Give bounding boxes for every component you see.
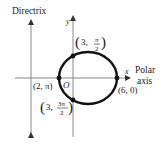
svg-text:π: π bbox=[95, 36, 99, 44]
svg-text:(: ( bbox=[40, 99, 45, 116]
point-left-label: (2, π) bbox=[33, 81, 53, 91]
x-axis-label: x bbox=[124, 67, 129, 76]
point-right-label: (6, 0) bbox=[118, 85, 138, 95]
svg-text:2: 2 bbox=[95, 45, 99, 53]
svg-text:(: ( bbox=[75, 34, 80, 51]
point-top bbox=[71, 54, 76, 59]
directrix-label: Directrix bbox=[12, 6, 47, 16]
origin-label: O bbox=[63, 80, 70, 90]
y-axis-label: y bbox=[65, 17, 70, 26]
svg-text:2: 2 bbox=[60, 109, 64, 117]
point-bottom-label: ( 3, 3π 2 ) bbox=[40, 99, 73, 117]
svg-text:): ) bbox=[101, 34, 106, 51]
svg-text:3,: 3, bbox=[46, 102, 53, 112]
svg-text:): ) bbox=[68, 99, 73, 116]
polar-label: Polar bbox=[135, 65, 156, 75]
svg-text:3π: 3π bbox=[58, 100, 66, 108]
point-top-label: ( 3, π 2 ) bbox=[75, 34, 106, 53]
point-right bbox=[115, 76, 120, 81]
point-left bbox=[57, 76, 62, 81]
polar-ellipse-diagram: Directrix x Polar axis y O ( 3, π 2 ) (2… bbox=[0, 0, 163, 145]
axis-label: axis bbox=[137, 76, 153, 86]
svg-text:3,: 3, bbox=[81, 37, 88, 47]
